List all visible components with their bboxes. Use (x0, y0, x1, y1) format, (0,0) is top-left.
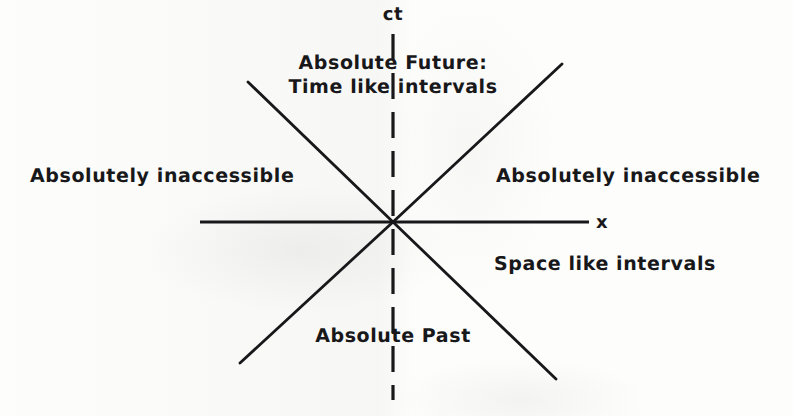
light-ray-past-right-line (393, 222, 556, 379)
right-inaccessible-label: Absolutely inaccessible (496, 165, 760, 189)
absolute-future-line-1: Absolute Future: (288, 52, 497, 76)
ct-axis-label: ct (383, 4, 403, 27)
x-axis-label: x (596, 212, 608, 235)
absolute-future-label: Absolute Future: Time like intervals (288, 52, 497, 100)
absolute-past-label: Absolute Past (315, 325, 471, 349)
absolute-future-line-2: Time like intervals (288, 76, 497, 100)
space-like-intervals-label: Space like intervals (494, 253, 716, 277)
left-inaccessible-label: Absolutely inaccessible (30, 165, 294, 189)
light-ray-future-left-line (248, 82, 393, 222)
figure-canvas: ct x Absolute Future: Time like interval… (0, 0, 793, 416)
